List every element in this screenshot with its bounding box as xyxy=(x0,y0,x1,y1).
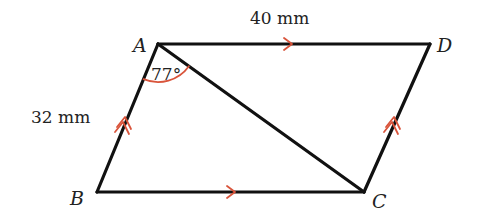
vertex-label-b: B xyxy=(69,187,84,209)
vertex-label-a: A xyxy=(131,34,147,56)
length-label-ab: 32 mm xyxy=(31,107,90,127)
vertex-label-d: D xyxy=(436,34,452,56)
angle-label-a: 77° xyxy=(151,64,181,84)
side-ab xyxy=(97,44,158,192)
parallelogram-diagram: A B C D 40 mm 32 mm 77° xyxy=(0,0,478,214)
length-label-ad: 40 mm xyxy=(250,8,309,28)
vertex-label-c: C xyxy=(372,190,387,212)
side-dc xyxy=(364,44,430,192)
